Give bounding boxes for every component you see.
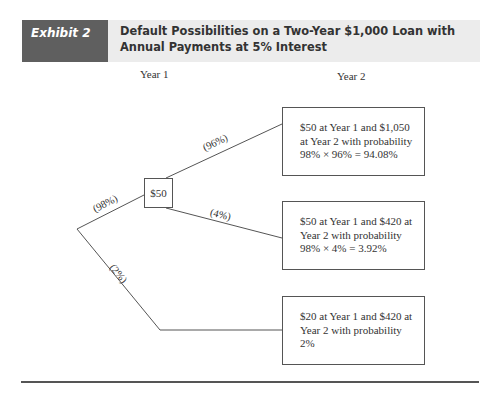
year1-node: $50 (144, 178, 173, 208)
outcome-box-default-year1: $20 at Year 1 and $420 at Year 2 with pr… (282, 296, 425, 365)
branch-default-year1 (77, 229, 282, 330)
outcome-line: $20 at Year 1 and $420 at (300, 310, 424, 324)
outcome-line: $50 at Year 1 and $420 at (300, 215, 424, 229)
outcome-line: 98% × 4% = 3.92% (300, 242, 424, 256)
outcome-line: 98% × 96% = 94.08% (300, 148, 424, 162)
outcome-line: 2% (300, 337, 424, 351)
outcome-line: Year 2 with probability (300, 229, 424, 243)
outcome-line: $50 at Year 1 and $1,050 (300, 121, 424, 135)
outcome-line: at Year 2 with probability (300, 135, 424, 149)
outcome-line: Year 2 with probability (300, 324, 424, 338)
outcome-box-default-year2: $50 at Year 1 and $420 at Year 2 with pr… (282, 201, 425, 270)
tree-connectors (0, 0, 503, 398)
bottom-rule (21, 381, 479, 383)
outcome-box-full-repayment: $50 at Year 1 and $1,050 at Year 2 with … (282, 107, 425, 176)
